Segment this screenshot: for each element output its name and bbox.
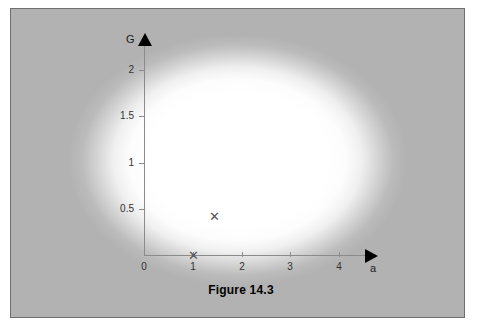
figure-root: G a 0 0.511.52 1234 ✕✕ Figure 14.3	[0, 0, 482, 336]
panel-glow	[11, 9, 464, 317]
figure-panel	[10, 8, 465, 318]
figure-caption: Figure 14.3	[0, 283, 482, 297]
